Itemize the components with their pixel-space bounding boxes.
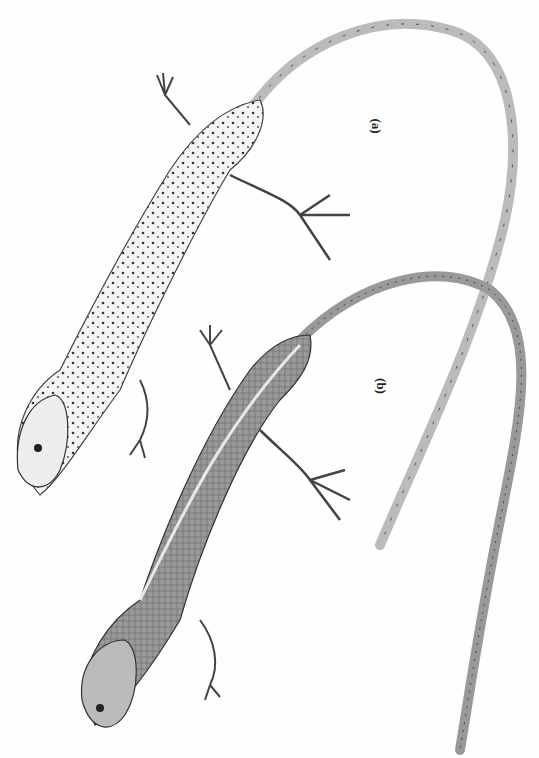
lizard-a bbox=[17, 24, 513, 545]
lizard-illustration bbox=[0, 0, 539, 758]
label-b: (b) bbox=[373, 378, 389, 394]
lizard-b bbox=[82, 276, 522, 750]
label-a: (a) bbox=[368, 118, 384, 133]
illustration-plate: (a) (b) bbox=[0, 0, 539, 758]
